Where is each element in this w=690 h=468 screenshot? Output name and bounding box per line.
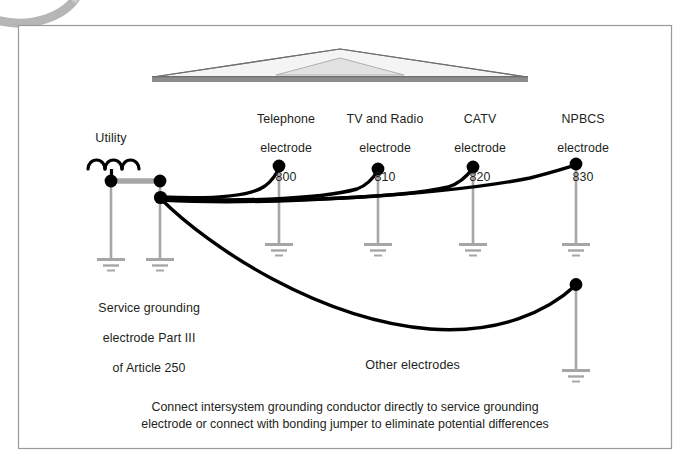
label-service-line2: electrode Part III <box>103 331 196 345</box>
label-catv-line1: CATV <box>464 112 497 126</box>
label-service-line1: Service grounding <box>98 301 200 315</box>
label-telephone-number: 800 <box>276 170 297 184</box>
label-service-grounding-electrode: Service grounding electrode Part III of … <box>47 286 237 391</box>
figure-root: Utility Telephone electrode 800 TV and R… <box>0 0 690 468</box>
label-tv-and-radio-line1: TV and Radio <box>346 112 423 126</box>
label-catv-line2: electrode <box>454 141 506 155</box>
label-npbcs-line1: NPBCS <box>561 112 604 126</box>
label-npbcs-electrode: NPBCS electrode 830 <box>516 97 636 199</box>
node-service-bus <box>154 175 167 188</box>
utility-label: Utility <box>66 131 156 146</box>
label-tv-and-radio-line2: electrode <box>359 141 411 155</box>
caption-line-2: electrode or connect with bonding jumper… <box>60 416 630 433</box>
label-tv-and-radio-number: 810 <box>375 170 396 184</box>
node-intersystem-junction <box>154 191 167 204</box>
figure-caption: Connect intersystem grounding conductor … <box>60 399 630 432</box>
label-service-line3: of Article 250 <box>113 361 186 375</box>
corner-arc-decoration <box>0 0 81 23</box>
label-catv-electrode: CATV electrode 820 <box>413 97 533 199</box>
label-telephone-line2: electrode <box>260 141 312 155</box>
label-telephone-line1: Telephone <box>257 112 315 126</box>
label-catv-number: 820 <box>470 170 491 184</box>
label-npbcs-number: 830 <box>573 170 594 184</box>
caption-line-1: Connect intersystem grounding conductor … <box>60 399 630 416</box>
label-npbcs-line2: electrode <box>557 141 609 155</box>
node-utility <box>105 175 118 188</box>
grounding-diagram-svg <box>0 0 690 468</box>
node-other-electrodes <box>570 278 583 291</box>
label-other-electrodes: Other electrodes <box>280 358 460 373</box>
